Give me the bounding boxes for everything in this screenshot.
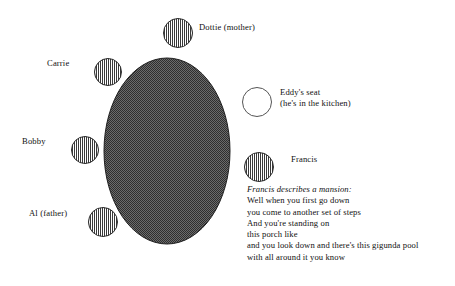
- seat-label-carrie: Carrie: [47, 58, 69, 69]
- seat-francis: [245, 153, 274, 182]
- seat-dottie: [164, 19, 193, 48]
- dining-table: [104, 58, 230, 244]
- seat-carrie: [95, 59, 122, 86]
- narrative-line: with all around it you know: [247, 252, 452, 263]
- narrative-line: this porch like: [247, 229, 452, 240]
- seat-eddy: [243, 88, 272, 117]
- narrative-block: Francis describes a mansion: Well when y…: [247, 184, 452, 263]
- narrative-line: and you look down and there's this gigun…: [247, 240, 452, 251]
- seat-al: [89, 208, 118, 237]
- narrative-line: you come to another set of steps: [247, 207, 452, 218]
- seat-label-francis: Francis: [291, 154, 317, 165]
- seating-chart-figure: Dottie (mother) Carrie Eddy's seat (he's…: [0, 0, 455, 286]
- seat-label-bobby: Bobby: [22, 136, 46, 147]
- narrative-line: And you're standing on: [247, 218, 452, 229]
- seat-label-dottie: Dottie (mother): [199, 22, 255, 33]
- seat-bobby: [72, 137, 99, 164]
- seat-label-eddy-line1: Eddy's seat: [280, 87, 320, 97]
- seat-label-eddy: Eddy's seat (he's in the kitchen): [280, 87, 400, 108]
- seat-label-al: Al (father): [29, 208, 67, 219]
- seat-label-eddy-line2: (he's in the kitchen): [280, 98, 351, 108]
- narrative-heading: Francis describes a mansion:: [247, 184, 452, 195]
- narrative-line: Well when you first go down: [247, 195, 452, 206]
